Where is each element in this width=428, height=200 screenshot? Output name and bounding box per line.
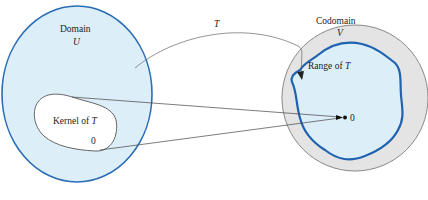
- kernel-zero-label: 0: [91, 136, 96, 146]
- zero-vector-dot: [343, 116, 347, 120]
- kernel-label: Kernel of T: [53, 116, 98, 126]
- range-label: Range of T: [308, 61, 351, 71]
- mapping-arrow: [135, 33, 302, 78]
- domain-label: Domain: [60, 24, 91, 34]
- domain-symbol: U: [73, 37, 81, 47]
- codomain-label: Codomain: [316, 16, 356, 26]
- mapping-label: T: [214, 19, 220, 29]
- linear-transformation-diagram: Domain U Kernel of T 0 T Codomain V Rang…: [0, 0, 428, 200]
- range-zero-label: 0: [350, 113, 355, 123]
